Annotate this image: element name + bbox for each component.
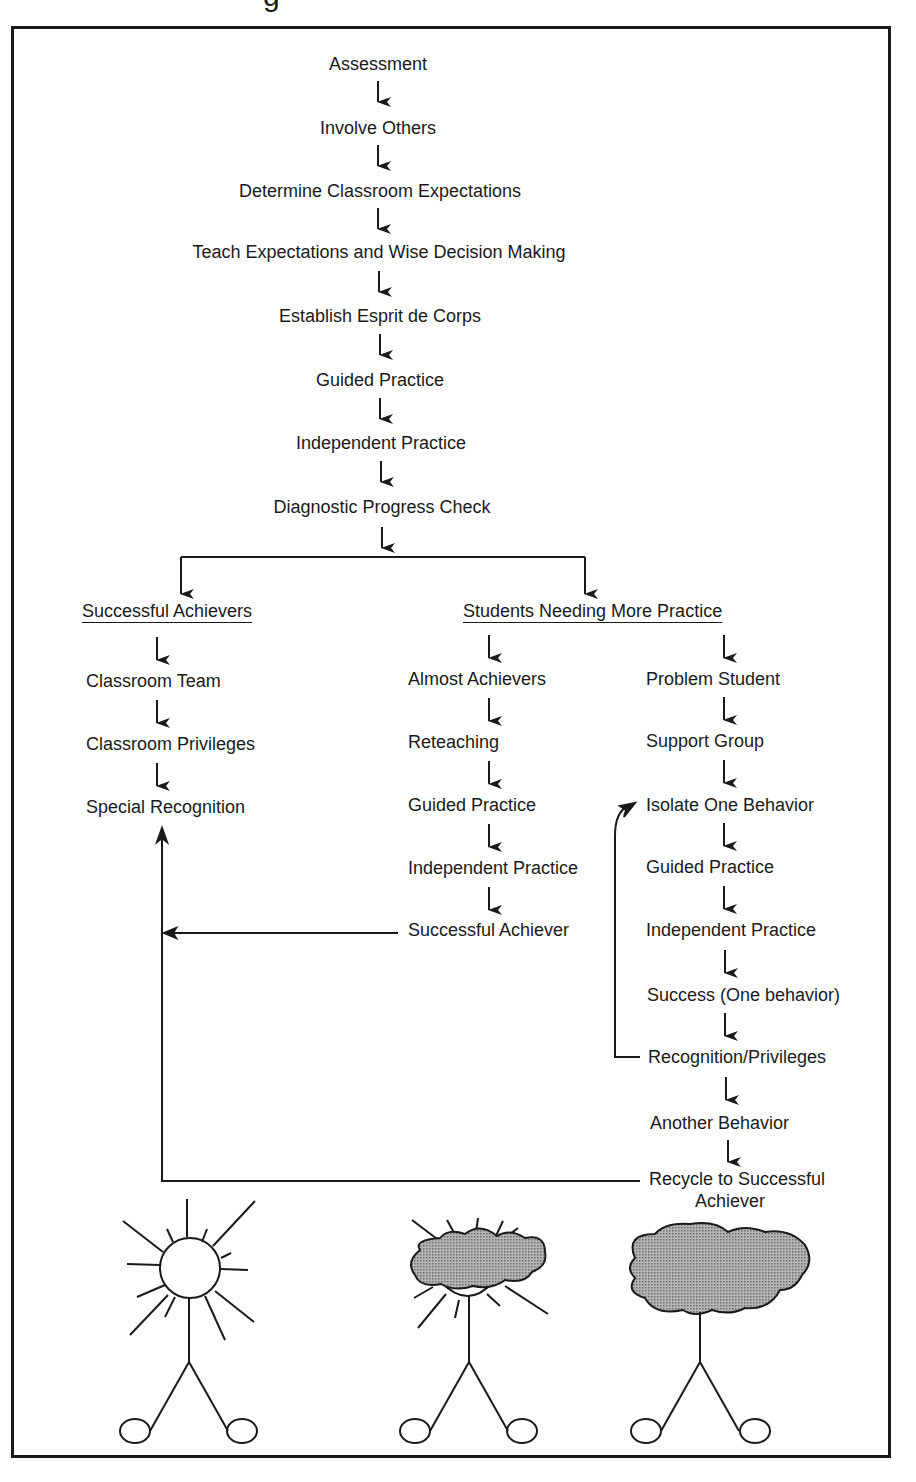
partly-cloudy-figure-icon [400, 1218, 548, 1443]
connectors-layer [0, 0, 916, 1482]
sun-figure-icon [120, 1199, 257, 1443]
feedback-arrows [157, 803, 640, 1181]
cloud-figure-icon [630, 1223, 809, 1443]
down-arrows [157, 81, 728, 1162]
